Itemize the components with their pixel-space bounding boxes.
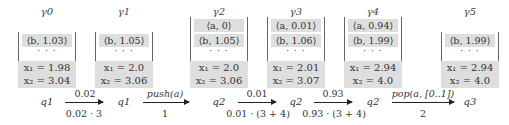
clock-valuation-gamma4: x₁ = 2.94 x₂ = 4.0 (344, 61, 402, 88)
stack-gamma1: ⟨b, 1.05⟩ · · · (95, 32, 153, 61)
transition-label-top: 0.02 (64, 88, 106, 99)
clock-x2: x₂ = 4.0 (344, 75, 402, 88)
clock-valuation-gamma5: x₁ = 2.94 x₂ = 4.0 (441, 61, 499, 88)
stack-gamma2: ⟨a, 0⟩ ⟨b, 1.05⟩ · · · (190, 17, 248, 61)
clock-x1: x₁ = 2.0 (190, 62, 248, 75)
clock-x1: x₁ = 2.94 (441, 62, 499, 75)
state-label: q1 (112, 96, 136, 107)
config-label-gamma1: γ1 (104, 6, 144, 17)
stack-frame: ⟨a, 0.01⟩ (271, 19, 321, 32)
config-label-gamma2: γ2 (199, 6, 239, 17)
stack-ellipsis: · · · (442, 47, 498, 56)
clock-x1: x₁ = 2.94 (344, 62, 402, 75)
transition-label-bottom: 2 (383, 108, 463, 119)
stack-ellipsis: · · · (19, 47, 75, 56)
clock-x2: x₂ = 3.06 (190, 75, 248, 88)
stack-gamma3: ⟨a, 0.01⟩ ⟨b, 1.06⟩ · · · (267, 17, 325, 61)
transition-arrow (392, 102, 454, 103)
stack-ellipsis: · · · (345, 47, 401, 56)
transition-label-top: pop(a, [0..1]) (383, 88, 463, 99)
transition-label-bottom: 0.02 · 3 (54, 108, 114, 119)
clock-x2: x₂ = 4.0 (441, 75, 499, 88)
state-label: q2 (361, 96, 385, 107)
clock-valuation-gamma0: x₁ = 1.98 x₂ = 3.04 (18, 61, 76, 88)
stack-gamma0: ⟨b, 1.03⟩ · · · (18, 32, 76, 61)
stack-ellipsis: · · · (96, 47, 152, 56)
clock-x2: x₂ = 3.07 (267, 75, 325, 88)
transition-label-bottom: 1 (140, 108, 190, 119)
state-label: q2 (284, 96, 308, 107)
clock-valuation-gamma2: x₁ = 2.0 x₂ = 3.06 (190, 61, 248, 88)
clock-x1: x₁ = 2.0 (95, 62, 153, 75)
transition-arrow (238, 102, 276, 103)
transition-label-bottom: 0.93 · (3 + 4) (294, 108, 374, 119)
config-label-gamma5: γ5 (450, 6, 490, 17)
clock-x2: x₂ = 3.06 (95, 75, 153, 88)
transition-arrow (314, 102, 352, 103)
stack-ellipsis: · · · (191, 47, 247, 56)
transition-label-top: push(a) (140, 88, 190, 99)
transition-arrow (65, 102, 103, 103)
state-label: q2 (207, 96, 231, 107)
transition-label-top: 0.01 (236, 88, 278, 99)
transition-label-bottom: 0.01 · (3 + 4) (218, 108, 298, 119)
stack-ellipsis: · · · (268, 47, 324, 56)
stack-frame: ⟨a, 0⟩ (194, 19, 244, 32)
stack-gamma5: ⟨b, 1.99⟩ · · · (441, 32, 499, 61)
config-label-gamma3: γ3 (276, 6, 316, 17)
state-label: q1 (35, 96, 59, 107)
clock-x1: x₁ = 1.98 (18, 62, 76, 75)
clock-x1: x₁ = 2.01 (267, 62, 325, 75)
clock-valuation-gamma1: x₁ = 2.0 x₂ = 3.06 (95, 61, 153, 88)
clock-valuation-gamma3: x₁ = 2.01 x₂ = 3.07 (267, 61, 325, 88)
stack-frame: ⟨a, 0.94⟩ (348, 19, 398, 32)
config-label-gamma0: γ0 (27, 6, 67, 17)
transition-arrow (143, 102, 189, 103)
stack-gamma4: ⟨a, 0.94⟩ ⟨b, 1.99⟩ · · · (344, 17, 402, 61)
clock-x2: x₂ = 3.04 (18, 75, 76, 88)
transition-label-top: 0.93 (312, 88, 354, 99)
config-label-gamma4: γ4 (353, 6, 393, 17)
